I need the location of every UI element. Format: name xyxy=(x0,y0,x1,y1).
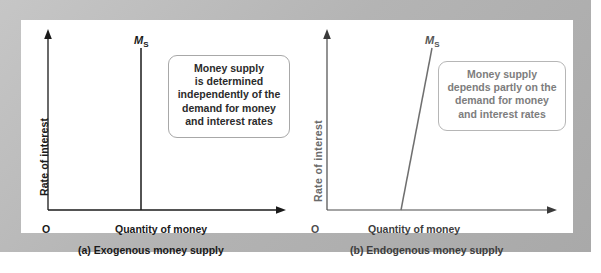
money-supply-curve-b xyxy=(401,48,432,210)
panel-exogenous-money-supply: Rate of interest O Quantity of money MS … xyxy=(21,20,297,233)
callout-box-a: Money supply is determined independently… xyxy=(168,55,290,138)
callout-line: independently of the xyxy=(173,88,285,101)
origin-label-b: O xyxy=(311,223,319,235)
x-axis-arrow-a xyxy=(276,206,286,214)
x-axis-label-a: Quantity of money xyxy=(115,223,207,235)
callout-box-b: Money supply depends partly on the deman… xyxy=(438,61,566,131)
curve-label-main-a: M xyxy=(134,34,143,46)
y-axis-arrow-a xyxy=(44,29,52,39)
panels-container: Rate of interest O Quantity of money MS … xyxy=(21,20,573,233)
money-supply-curve-label-b: MS xyxy=(425,34,440,49)
callout-line: Money supply xyxy=(173,62,285,75)
callout-line: is determined xyxy=(173,75,285,88)
curve-label-sub-a: S xyxy=(143,40,148,49)
callout-line: demand for money xyxy=(173,102,285,115)
y-axis-label-a: Rate of interest xyxy=(38,118,50,196)
y-axis-label-b: Rate of interest xyxy=(312,120,324,202)
callout-line: Money supply xyxy=(443,68,561,81)
panel-endogenous-money-supply: Rate of interest O Quantity of money MS … xyxy=(297,20,573,233)
callout-line: depends partly on the xyxy=(443,81,561,94)
callout-line: and interest rates xyxy=(173,115,285,128)
curve-label-main-b: M xyxy=(425,34,434,46)
money-supply-curve-label-a: MS xyxy=(134,34,149,49)
x-axis-arrow-b xyxy=(547,206,557,214)
origin-label-a: O xyxy=(42,223,50,235)
panel-caption-a: (a) Exogenous money supply xyxy=(78,244,224,256)
figure-root: Rate of interest O Quantity of money MS … xyxy=(0,0,601,273)
panel-caption-b: (b) Endogenous money supply xyxy=(350,244,503,256)
x-axis-label-b: Quantity of money xyxy=(368,223,460,235)
y-axis-arrow-b xyxy=(323,29,331,39)
callout-line: demand for money xyxy=(443,94,561,107)
curve-label-sub-b: S xyxy=(434,40,439,49)
callout-line: and interest rates xyxy=(443,108,561,121)
